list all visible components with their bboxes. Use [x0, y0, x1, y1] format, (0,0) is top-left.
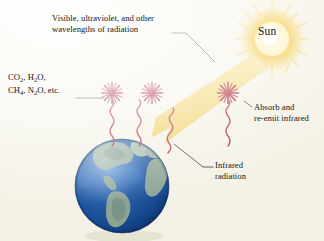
label-absorb-reemit: Absorb and re-emit infrared	[254, 102, 309, 124]
label-infrared-radiation: Infrared radiation	[215, 160, 246, 182]
label-greenhouse-gases-line2: CH4, N2O, etc.	[8, 85, 60, 98]
formula-h2o-tail: O,	[37, 72, 45, 82]
greenhouse-effect-figure: Visible, ultraviolet, and other waveleng…	[0, 0, 324, 241]
molecule-left	[102, 83, 123, 104]
earth-icon	[75, 139, 169, 241]
label-absorb-line2: re-emit infrared	[254, 113, 309, 124]
molecule-center	[142, 83, 163, 104]
label-absorb-line1: Absorb and	[254, 102, 309, 113]
label-infrared-line1: Infrared	[215, 160, 246, 171]
label-sun: Sun	[258, 25, 277, 37]
label-incoming-radiation: Visible, ultraviolet, and other waveleng…	[52, 13, 154, 35]
infrared-wave	[110, 100, 114, 146]
label-greenhouse-gases-line1: CO2, H2O,	[8, 72, 60, 85]
infrared-wave	[226, 100, 230, 146]
label-infrared-line2: radiation	[215, 171, 246, 182]
formula-h2o-symbol: , H	[23, 72, 34, 82]
formula-ch4-symbol: CH	[8, 85, 20, 95]
molecule-right	[218, 83, 239, 104]
formula-n2o-tail: O, etc.	[37, 85, 60, 95]
label-incoming-radiation-line1: Visible, ultraviolet, and other	[52, 13, 154, 24]
formula-co2-symbol: CO	[8, 72, 20, 82]
leader-line-absorb	[244, 101, 252, 107]
label-incoming-radiation-line2: wavelengths of radiation	[52, 24, 154, 35]
leader-line-incoming-radiation	[172, 33, 215, 62]
solar-radiation-beam	[152, 55, 268, 143]
label-greenhouse-gases: CO2, H2O, CH4, N2O, etc.	[8, 72, 60, 98]
formula-n2o-symbol: , N	[23, 85, 34, 95]
infrared-wave	[137, 100, 141, 146]
leader-line-infrared	[174, 144, 213, 167]
